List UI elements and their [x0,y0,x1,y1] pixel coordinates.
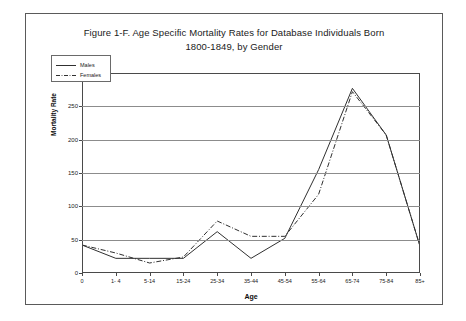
x-tick-label: 1- 4 [111,278,120,284]
x-tick-label: 65-74 [345,278,359,284]
x-tick-label: 85+ [415,278,424,284]
x-tick-label: 0 [80,278,83,284]
chart-title: Figure 1-F. Age Specific Mortality Rates… [26,26,442,54]
x-tick-mark [183,273,184,276]
x-tick-label: 25-34 [210,278,224,284]
y-tick-label: 250 [68,103,78,109]
gridline [82,173,420,174]
x-tick-mark [217,273,218,276]
legend-item-females: Females [56,70,110,80]
x-tick-label: 45-54 [278,278,292,284]
y-tick-mark [79,206,82,207]
gridline [82,206,420,207]
x-tick-mark [285,273,286,276]
y-tick-label: 200 [68,137,78,143]
chart-legend: Males Females [51,55,111,82]
x-tick-label: 55-64 [312,278,326,284]
y-tick-mark [79,106,82,107]
x-tick-label: 35-44 [244,278,258,284]
gridline [82,140,420,141]
x-tick-label: 5-14 [144,278,155,284]
x-tick-mark [386,273,387,276]
x-tick-mark [319,273,320,276]
chart-title-line1: Figure 1-F. Age Specific Mortality Rates… [84,27,385,38]
y-tick-mark [79,240,82,241]
legend-swatch-females [56,72,76,79]
x-tick-label: 15-24 [176,278,190,284]
y-tick-label: 0 [75,270,78,276]
y-tick-label: 100 [68,203,78,209]
x-tick-mark [82,273,83,276]
legend-swatch-males [56,62,76,69]
figure-frame: Figure 1-F. Age Specific Mortality Rates… [25,13,443,305]
x-axis-title: Age [82,293,420,300]
x-tick-label: 75-84 [379,278,393,284]
x-tick-mark [150,273,151,276]
legend-label-males: Males [80,62,95,68]
legend-item-males: Males [56,60,110,70]
y-tick-mark [79,173,82,174]
plot-area: 050100150200250300 01- 45-1415-2425-3435… [82,73,420,273]
y-tick-mark [79,140,82,141]
legend-label-females: Females [80,72,101,78]
chart-title-line2: 1800-1849, by Gender [26,40,442,54]
x-tick-mark [352,273,353,276]
x-tick-mark [116,273,117,276]
y-axis-title: Mortality Rate [50,93,57,136]
y-tick-label: 50 [71,237,78,243]
x-tick-mark [420,273,421,276]
y-tick-label: 150 [68,170,78,176]
gridline [82,106,420,107]
gridline [82,240,420,241]
x-tick-mark [251,273,252,276]
